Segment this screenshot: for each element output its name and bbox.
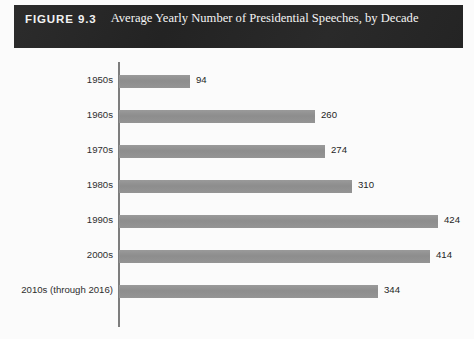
category-label: 1980s [0, 178, 113, 191]
bar [119, 75, 190, 88]
category-label: 1950s [0, 73, 113, 86]
bar-row: 1990s424 [0, 215, 474, 228]
bar-row: 1980s310 [0, 180, 474, 193]
figure-header-banner: FIGURE 9.3 Average Yearly Number of Pres… [14, 5, 463, 48]
bar-row: 1960s260 [0, 110, 474, 123]
bar-row: 2010s (through 2016)344 [0, 285, 474, 298]
bar-value-label: 414 [436, 248, 452, 261]
bar-value-label: 344 [384, 283, 400, 296]
category-label: 2000s [0, 248, 113, 261]
bar [119, 250, 430, 263]
bar [119, 285, 378, 298]
bar [119, 215, 438, 228]
bar [119, 145, 325, 158]
bar-value-label: 260 [321, 108, 337, 121]
bar-value-label: 94 [196, 73, 207, 86]
bar-row: 1970s274 [0, 145, 474, 158]
bar-chart-plot-area: 1950s941960s2601970s2741980s3101990s4242… [0, 56, 474, 339]
category-label: 1970s [0, 143, 113, 156]
category-label: 1960s [0, 108, 113, 121]
bar-value-label: 424 [444, 213, 460, 226]
bar-row: 1950s94 [0, 75, 474, 88]
figure-number-label: FIGURE 9.3 [25, 11, 97, 27]
bar-row: 2000s414 [0, 250, 474, 263]
category-label: 1990s [0, 213, 113, 226]
bar-value-label: 310 [358, 178, 374, 191]
category-label: 2010s (through 2016) [0, 283, 113, 296]
figure-title: Average Yearly Number of Presidential Sp… [111, 11, 419, 26]
bar [119, 180, 352, 193]
figure-container: FIGURE 9.3 Average Yearly Number of Pres… [0, 0, 474, 339]
bar-value-label: 274 [331, 143, 347, 156]
bar [119, 110, 315, 123]
